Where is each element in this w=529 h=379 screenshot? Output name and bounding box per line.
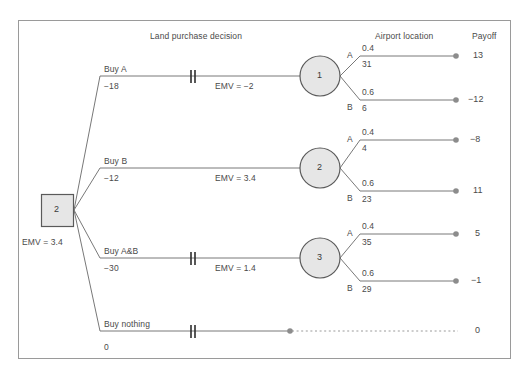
branch-label-buy-nothing[interactable]: Buy nothing [104,320,150,329]
outcome-name-3-b: B [347,284,353,293]
outcome-name-2-a: A [347,135,353,144]
outcome-name-1-a: A [347,51,353,60]
branch-label-buy-a[interactable]: Buy A [104,65,127,74]
outcome-name-2-b: B [347,194,353,203]
terminal-dot-3-a [453,231,459,237]
terminal-dot-1-b [453,97,459,103]
outcome-value-3-b: 29 [362,285,372,294]
outcome-name-3-a: A [347,229,353,238]
chance-node-1-value: 1 [317,71,322,80]
terminal-dot-1-a [453,53,459,59]
decision-node-value: 2 [54,205,59,214]
outcome-prob-2-a: 0.4 [362,128,374,137]
branch-cost-buy-a-and-b: −30 [104,264,119,273]
outcome-line-1-b [340,76,455,100]
outcome-value-1-b: 6 [362,104,367,113]
figure-border [19,21,511,359]
payoff-2-b: 11 [473,186,483,195]
chance-node-2-value: 2 [317,163,322,172]
outcome-value-2-b: 23 [362,195,372,204]
chance-node-3-value: 3 [317,253,322,262]
terminal-dot-2-a [453,137,459,143]
payoff-buy-nothing: 0 [475,326,480,335]
branch-line-buy-a [74,76,300,210]
outcome-name-1-b: B [347,103,353,112]
decision-tree-figure: Land purchase decision Airport location … [0,0,529,379]
terminal-dot-2-b [453,188,459,194]
payoff-1-a: 13 [473,51,483,60]
outcome-line-1-a [340,56,455,76]
header-airport-location: Airport location [375,32,433,41]
branch-emv-buy-a-and-b: EMV = 1.4 [215,264,256,273]
outcome-value-1-a: 31 [362,60,372,69]
header-payoff: Payoff [472,32,497,41]
outcome-line-2-b [340,168,455,191]
outcome-prob-3-b: 0.6 [362,269,374,278]
outcome-prob-3-a: 0.4 [362,222,374,231]
branch-cost-buy-a: −18 [104,82,119,91]
header-land-purchase-decision: Land purchase decision [150,32,242,41]
decision-tree-canvas [0,0,529,379]
outcome-prob-1-b: 0.6 [362,88,374,97]
branch-label-buy-b[interactable]: Buy B [104,157,127,166]
payoff-1-b: −12 [468,95,484,104]
branch-cost-buy-nothing: 0 [104,343,109,352]
outcome-prob-1-a: 0.4 [362,44,374,53]
branch-cost-buy-b: −12 [104,174,119,183]
outcome-line-3-b [340,258,455,281]
branch-label-buy-a-and-b[interactable]: Buy A&B [104,247,138,256]
outcome-value-3-a: 35 [362,238,372,247]
outcome-prob-2-b: 0.6 [362,179,374,188]
outcome-value-2-a: 4 [362,144,367,153]
payoff-3-b: −1 [471,276,481,285]
outcome-line-2-a [340,140,455,168]
outcome-line-3-a [340,234,455,258]
payoff-3-a: 5 [475,229,480,238]
terminal-dot-buy-nothing [287,328,293,334]
terminal-dot-3-b [453,278,459,284]
decision-node-emv: EMV = 3.4 [22,238,63,247]
payoff-2-a: −8 [470,135,480,144]
branch-emv-buy-b: EMV = 3.4 [215,174,256,183]
branch-emv-buy-a: EMV = −2 [215,82,254,91]
